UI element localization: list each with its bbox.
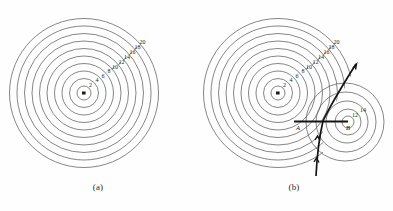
panel-b-caption: (b): [196, 182, 392, 192]
panel-a: 2 4 6 8 10 12 14 16 18 20 (a): [0, 0, 196, 211]
point-label-a: A: [295, 124, 300, 131]
figure-container: 2 4 6 8 10 12 14 16 18 20 (a): [0, 0, 393, 211]
panel-b: A B 2 4 6 8 10 12 14 16 18 20: [196, 0, 392, 211]
contour-label-4: 4: [96, 77, 99, 83]
secondary-contour-label-14: 14: [360, 107, 366, 113]
panel-a-caption: (a): [0, 182, 196, 192]
contour-labels-primary: 2 4 6 8 10 12 14 16 18 20: [283, 39, 340, 89]
contour-label-20: 20: [140, 39, 146, 45]
contour-label-8: 8: [108, 68, 111, 74]
contour-label-20: 20: [334, 39, 340, 45]
panel-a-plot: 2 4 6 8 10 12 14 16 18 20: [0, 0, 196, 211]
point-label-b: B: [346, 124, 350, 131]
contour-labels-secondary: 12 14: [352, 107, 366, 118]
primary-vortex-center-marker: [276, 92, 280, 95]
vortex-center-marker: [82, 92, 86, 95]
secondary-contour-label-12: 12: [352, 112, 358, 118]
contour-label-8: 8: [302, 68, 305, 74]
contour-label-2: 2: [89, 82, 92, 88]
contour-label-4: 4: [290, 77, 293, 83]
contour-labels: 2 4 6 8 10 12 14 16 18 20: [89, 39, 146, 89]
panel-b-plot: A B 2 4 6 8 10 12 14 16 18 20: [196, 0, 392, 211]
contour-label-6: 6: [296, 73, 299, 79]
contour-label-2: 2: [283, 82, 286, 88]
contour-label-6: 6: [102, 73, 105, 79]
